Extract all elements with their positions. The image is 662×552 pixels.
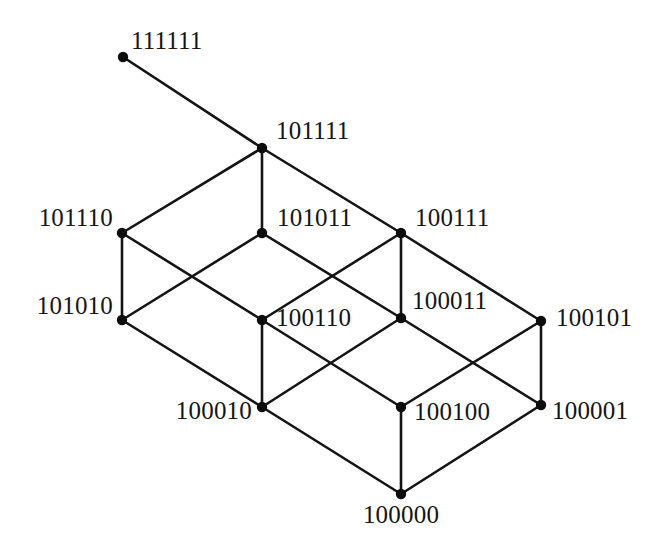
node-label-100111: 100111 bbox=[415, 205, 489, 230]
edge-101111-101110 bbox=[122, 148, 262, 233]
node-label-100001: 100001 bbox=[552, 398, 628, 423]
node-label-100000: 100000 bbox=[301, 502, 501, 527]
vertex-100000[interactable] bbox=[396, 489, 406, 499]
edge-100011-100001 bbox=[401, 318, 541, 405]
vertex-100111[interactable] bbox=[396, 228, 406, 238]
vertex-100110[interactable] bbox=[257, 315, 267, 325]
edge-111111-101111 bbox=[123, 57, 262, 148]
node-label-100010: 100010 bbox=[0, 398, 252, 423]
node-label-111111: 111111 bbox=[131, 28, 203, 53]
node-label-100011: 100011 bbox=[412, 288, 487, 313]
edge-100101-100100 bbox=[401, 321, 541, 407]
vertex-100010[interactable] bbox=[257, 402, 267, 412]
node-label-101111: 101111 bbox=[276, 118, 349, 143]
vertex-101111[interactable] bbox=[257, 143, 267, 153]
graph-canvas bbox=[0, 0, 662, 552]
vertex-101010[interactable] bbox=[117, 315, 127, 325]
node-label-100110: 100110 bbox=[276, 305, 351, 330]
node-label-101011: 101011 bbox=[277, 205, 352, 230]
node-label-101110: 101110 bbox=[0, 205, 113, 230]
node-label-100100: 100100 bbox=[414, 399, 490, 424]
vertex-100100[interactable] bbox=[396, 402, 406, 412]
hasse-diagram-figure: 1111111011111011101010111001111010101001… bbox=[0, 0, 662, 552]
vertex-111111[interactable] bbox=[118, 52, 128, 62]
vertex-100001[interactable] bbox=[536, 400, 546, 410]
vertex-101011[interactable] bbox=[257, 228, 267, 238]
vertex-100101[interactable] bbox=[536, 316, 546, 326]
vertex-100011[interactable] bbox=[396, 313, 406, 323]
node-label-101010: 101010 bbox=[0, 293, 113, 318]
edge-100010-100000 bbox=[262, 407, 401, 494]
vertex-101110[interactable] bbox=[117, 228, 127, 238]
edge-101010-100010 bbox=[122, 320, 262, 407]
node-label-100101: 100101 bbox=[556, 305, 632, 330]
